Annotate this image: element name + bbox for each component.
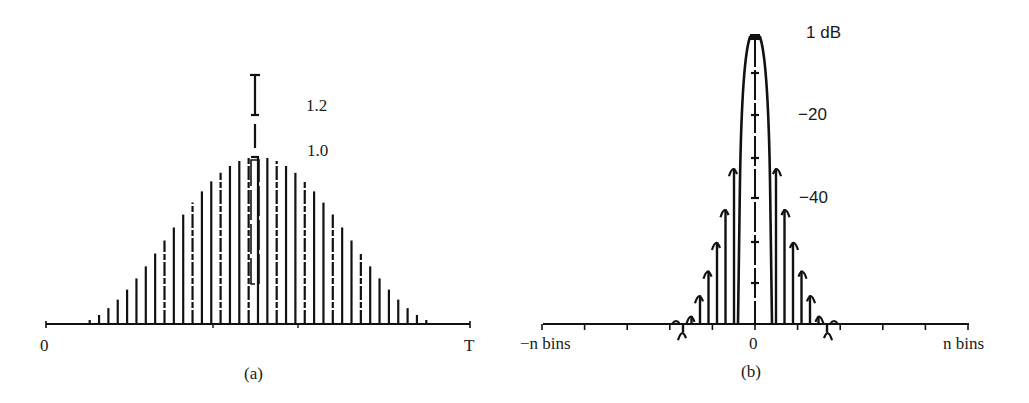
panel-b-side-lobe-cap	[678, 333, 686, 340]
panel-a-x-end-label: T	[464, 336, 474, 356]
panel-b-x-center-label: 0	[749, 334, 758, 354]
panel-a-window-plot	[0, 0, 1029, 403]
figure-canvas: 1.2 1.0 0 T (a) 1 dB −20 −40 −n bins 0 n…	[0, 0, 1029, 403]
panel-b-caption: (b)	[741, 362, 761, 382]
panel-a-caption: (a)	[244, 364, 263, 384]
panel-b-x-start-label: −n bins	[520, 334, 571, 354]
panel-a-x-start-label: 0	[40, 336, 49, 356]
panel-b-label-minus20: −20	[798, 105, 827, 125]
panel-b-x-end-label: n bins	[943, 334, 984, 354]
panel-a-label-1-2: 1.2	[306, 96, 327, 116]
panel-b-label-1db: 1 dB	[806, 23, 841, 43]
panel-a-label-1-0: 1.0	[307, 141, 328, 161]
panel-b-side-lobe-cap	[824, 333, 832, 340]
panel-b-label-minus40: −40	[799, 188, 828, 208]
